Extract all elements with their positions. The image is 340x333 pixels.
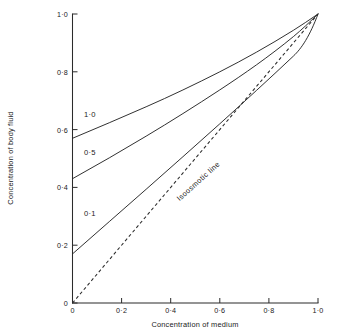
y-tick-label-2: 0·4	[57, 183, 68, 192]
y-axis-title: Concentration of body fluid	[6, 111, 15, 204]
osmoregulation-chart: 0 0·2 0·4 0·6 0·8 1·0 0 0·2 0·4 0·6 0·8 …	[0, 0, 340, 333]
x-tick-label-3: 0·6	[214, 306, 225, 315]
y-tick-label-3: 0·6	[57, 126, 68, 135]
chart-figure: 0 0·2 0·4 0·6 0·8 1·0 0 0·2 0·4 0·6 0·8 …	[0, 0, 340, 333]
x-tick-label-2: 0·4	[165, 306, 176, 315]
y-tick-label-0: 0	[64, 299, 68, 308]
y-tick-label-1: 0·2	[57, 241, 68, 250]
y-tick-label-5: 1·0	[57, 10, 68, 19]
curve-label-0-5: 0·5	[84, 148, 96, 157]
x-tick-label-1: 0·2	[116, 306, 127, 315]
curve-label-0-1: 0·1	[84, 209, 96, 218]
x-tick-label-4: 0·8	[263, 306, 274, 315]
x-tick-label-0: 0	[70, 306, 74, 315]
y-tick-label-4: 0·8	[57, 68, 68, 77]
x-axis-title: Concentration of medium	[151, 320, 238, 329]
x-tick-label-5: 1·0	[313, 306, 324, 315]
curve-label-1-0: 1·0	[84, 110, 96, 119]
chart-background	[0, 0, 340, 333]
